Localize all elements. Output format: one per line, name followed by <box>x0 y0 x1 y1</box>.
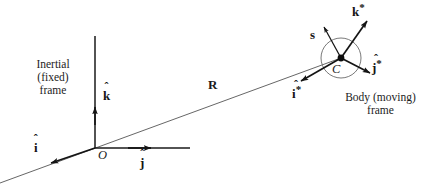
axis-j-hat-star-arrow <box>341 58 370 73</box>
inertial-frame-caption-line-1: Inertial <box>14 58 92 71</box>
origin-label-O: O <box>98 148 107 162</box>
axis-label-j-hat-star: ˆ j* <box>372 60 382 76</box>
axis-label-j-hat: ˆ j <box>140 155 144 171</box>
axis-label-i-hat: ˆ i <box>34 140 38 156</box>
hat-accent: ˆ <box>294 78 298 93</box>
star-accent: * <box>359 1 365 13</box>
axis-label-i-hat-star: ˆ i* <box>292 86 301 102</box>
body-frame-caption-line-1: Body (moving) <box>332 91 429 104</box>
vector-diagram-figure: Inertial (fixed) frame Body (moving) fra… <box>0 0 431 192</box>
axis-label-k-hat-star: ˆ k* <box>352 4 365 20</box>
body-frame-caption-line-2: frame <box>332 104 429 117</box>
hat-accent: ˆ <box>140 147 144 162</box>
hat-accent: ˆ <box>34 132 38 147</box>
body-frame-caption: Body (moving) frame <box>332 91 429 117</box>
axis-label-k-hat: ˆ k <box>103 88 110 104</box>
spin-vector-s-arrow <box>324 27 341 58</box>
hat-accent: ˆ <box>105 80 109 95</box>
axis-i-hat-arrow <box>51 148 95 163</box>
inertial-frame-axes <box>51 36 190 163</box>
position-vector-R-label: R <box>208 78 217 93</box>
inertial-frame-caption: Inertial (fixed) frame <box>14 58 92 97</box>
inertial-frame-caption-line-3: frame <box>14 84 92 97</box>
body-center-label-C: C <box>332 62 340 76</box>
inertial-frame-caption-line-2: (fixed) <box>14 71 92 84</box>
body-center-point <box>338 55 345 62</box>
axis-k-hat-star-arrow <box>341 21 367 58</box>
hat-accent: ˆ <box>374 52 378 67</box>
hat-accent: ˆ <box>355 0 359 11</box>
spin-vector-s-label: s <box>310 28 315 43</box>
